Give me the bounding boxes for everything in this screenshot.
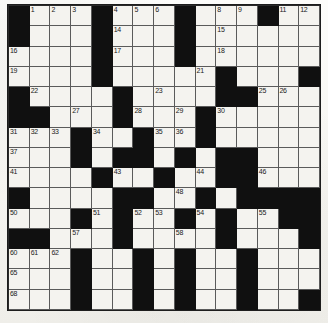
crossword-open-cell[interactable] xyxy=(237,209,258,229)
crossword-open-cell[interactable]: 30 xyxy=(216,107,237,127)
crossword-open-cell[interactable] xyxy=(279,229,300,249)
crossword-open-cell[interactable] xyxy=(216,128,237,148)
crossword-open-cell[interactable] xyxy=(30,188,51,208)
crossword-open-cell[interactable]: 61 xyxy=(30,249,51,269)
crossword-open-cell[interactable] xyxy=(133,168,154,188)
crossword-open-cell[interactable]: 28 xyxy=(133,107,154,127)
crossword-open-cell[interactable] xyxy=(196,290,217,310)
crossword-open-cell[interactable]: 18 xyxy=(216,47,237,67)
crossword-open-cell[interactable] xyxy=(92,148,113,168)
crossword-open-cell[interactable]: 51 xyxy=(92,209,113,229)
crossword-open-cell[interactable]: 6 xyxy=(154,6,175,26)
crossword-open-cell[interactable]: 11 xyxy=(279,6,300,26)
crossword-open-cell[interactable] xyxy=(279,249,300,269)
crossword-open-cell[interactable] xyxy=(50,229,71,249)
crossword-open-cell[interactable]: 29 xyxy=(175,107,196,127)
crossword-open-cell[interactable] xyxy=(237,229,258,249)
crossword-open-cell[interactable] xyxy=(154,26,175,46)
crossword-open-cell[interactable] xyxy=(196,26,217,46)
crossword-open-cell[interactable] xyxy=(50,269,71,289)
crossword-open-cell[interactable] xyxy=(237,67,258,87)
crossword-open-cell[interactable] xyxy=(216,290,237,310)
crossword-open-cell[interactable] xyxy=(299,168,320,188)
crossword-open-cell[interactable] xyxy=(154,188,175,208)
crossword-open-cell[interactable]: 23 xyxy=(154,87,175,107)
crossword-open-cell[interactable] xyxy=(50,209,71,229)
crossword-open-cell[interactable] xyxy=(154,229,175,249)
crossword-open-cell[interactable]: 54 xyxy=(196,209,217,229)
crossword-open-cell[interactable] xyxy=(299,269,320,289)
crossword-open-cell[interactable] xyxy=(175,87,196,107)
crossword-open-cell[interactable]: 2 xyxy=(50,6,71,26)
crossword-open-cell[interactable] xyxy=(279,290,300,310)
crossword-open-cell[interactable]: 16 xyxy=(9,47,30,67)
crossword-open-cell[interactable] xyxy=(196,6,217,26)
crossword-open-cell[interactable] xyxy=(258,26,279,46)
crossword-open-cell[interactable]: 50 xyxy=(9,209,30,229)
crossword-open-cell[interactable] xyxy=(154,107,175,127)
crossword-open-cell[interactable]: 58 xyxy=(175,229,196,249)
crossword-open-cell[interactable]: 34 xyxy=(92,128,113,148)
crossword-open-cell[interactable] xyxy=(92,87,113,107)
crossword-open-cell[interactable]: 25 xyxy=(258,87,279,107)
crossword-open-cell[interactable] xyxy=(279,67,300,87)
crossword-open-cell[interactable]: 17 xyxy=(113,47,134,67)
crossword-open-cell[interactable] xyxy=(258,269,279,289)
crossword-open-cell[interactable] xyxy=(71,26,92,46)
crossword-open-cell[interactable] xyxy=(50,26,71,46)
crossword-open-cell[interactable] xyxy=(196,269,217,289)
crossword-open-cell[interactable]: 46 xyxy=(258,168,279,188)
crossword-open-cell[interactable] xyxy=(50,87,71,107)
crossword-open-cell[interactable] xyxy=(299,47,320,67)
crossword-open-cell[interactable] xyxy=(30,290,51,310)
crossword-open-cell[interactable] xyxy=(154,67,175,87)
crossword-open-cell[interactable] xyxy=(299,26,320,46)
crossword-open-cell[interactable] xyxy=(299,128,320,148)
crossword-open-cell[interactable] xyxy=(196,229,217,249)
crossword-open-cell[interactable] xyxy=(113,249,134,269)
crossword-open-cell[interactable] xyxy=(92,269,113,289)
crossword-open-cell[interactable] xyxy=(133,87,154,107)
crossword-open-cell[interactable]: 15 xyxy=(216,26,237,46)
crossword-open-cell[interactable] xyxy=(50,67,71,87)
crossword-open-cell[interactable] xyxy=(154,47,175,67)
crossword-open-cell[interactable]: 27 xyxy=(71,107,92,127)
crossword-open-cell[interactable]: 12 xyxy=(299,6,320,26)
crossword-open-cell[interactable] xyxy=(258,148,279,168)
crossword-open-cell[interactable]: 1 xyxy=(30,6,51,26)
crossword-open-cell[interactable] xyxy=(216,249,237,269)
crossword-open-cell[interactable]: 21 xyxy=(196,67,217,87)
crossword-open-cell[interactable] xyxy=(92,188,113,208)
crossword-open-cell[interactable] xyxy=(30,148,51,168)
crossword-open-cell[interactable]: 22 xyxy=(30,87,51,107)
crossword-open-cell[interactable]: 65 xyxy=(9,269,30,289)
crossword-open-cell[interactable]: 52 xyxy=(133,209,154,229)
crossword-open-cell[interactable] xyxy=(154,290,175,310)
crossword-open-cell[interactable] xyxy=(113,128,134,148)
crossword-open-cell[interactable] xyxy=(279,269,300,289)
crossword-open-cell[interactable]: 55 xyxy=(258,209,279,229)
crossword-open-cell[interactable] xyxy=(154,148,175,168)
crossword-open-cell[interactable] xyxy=(237,107,258,127)
crossword-open-cell[interactable] xyxy=(50,47,71,67)
crossword-open-cell[interactable]: 19 xyxy=(9,67,30,87)
crossword-open-cell[interactable] xyxy=(113,269,134,289)
crossword-open-cell[interactable]: 32 xyxy=(30,128,51,148)
crossword-open-cell[interactable] xyxy=(279,107,300,127)
crossword-open-cell[interactable] xyxy=(133,229,154,249)
crossword-open-cell[interactable]: 68 xyxy=(9,290,30,310)
crossword-open-cell[interactable]: 37 xyxy=(9,148,30,168)
crossword-open-cell[interactable] xyxy=(196,87,217,107)
crossword-open-cell[interactable] xyxy=(71,87,92,107)
crossword-open-cell[interactable] xyxy=(299,87,320,107)
crossword-open-cell[interactable]: 33 xyxy=(50,128,71,148)
crossword-open-cell[interactable] xyxy=(30,26,51,46)
crossword-open-cell[interactable]: 35 xyxy=(154,128,175,148)
crossword-open-cell[interactable] xyxy=(133,26,154,46)
crossword-open-cell[interactable] xyxy=(196,47,217,67)
crossword-open-cell[interactable]: 14 xyxy=(113,26,134,46)
crossword-open-cell[interactable] xyxy=(71,47,92,67)
crossword-open-cell[interactable] xyxy=(216,188,237,208)
crossword-open-cell[interactable]: 31 xyxy=(9,128,30,148)
crossword-open-cell[interactable] xyxy=(237,47,258,67)
